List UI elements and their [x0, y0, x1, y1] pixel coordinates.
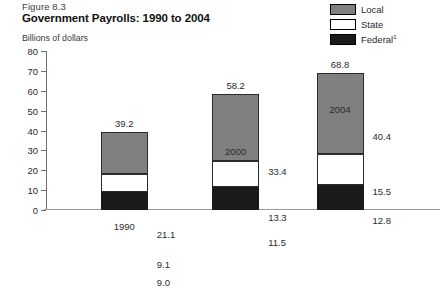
segment-value-state-1990: 9.1 — [157, 259, 170, 270]
legend-label-federal-text: Federal — [361, 34, 393, 45]
legend-label-local: Local — [361, 4, 384, 15]
segment-value-local-2004: 40.4 — [373, 130, 392, 141]
bar-segment-state-2000[interactable] — [212, 161, 259, 187]
figure-number: Figure 8.3 — [22, 1, 66, 12]
y-axis-unit-label: Billions of dollars — [22, 33, 88, 43]
y-axis-tick-label: 70 — [27, 65, 38, 76]
legend-item-state: State — [330, 18, 397, 31]
y-axis-tick — [41, 131, 46, 132]
segment-value-local-1990: 21.1 — [157, 229, 176, 240]
plot-area: 010203040506070809.09.121.139.2199011.51… — [46, 51, 394, 210]
bar-total-2000: 58.2 — [226, 80, 245, 91]
legend-item-local: Local — [330, 3, 397, 16]
bar-segment-federal-2004[interactable] — [317, 185, 364, 210]
y-axis-tick — [41, 51, 46, 52]
y-axis-tick-label: 50 — [27, 105, 38, 116]
segment-value-federal-2004: 12.8 — [373, 214, 392, 225]
y-axis-tick-label: 20 — [27, 165, 38, 176]
legend-swatch-state-icon — [330, 19, 356, 30]
y-axis-tick-label: 80 — [27, 46, 38, 57]
bar-segment-federal-1990[interactable] — [101, 192, 148, 210]
legend-item-federal: Federal1 — [330, 33, 397, 46]
segment-value-federal-1990: 9.0 — [157, 277, 170, 288]
bar-segment-state-1990[interactable] — [101, 174, 148, 192]
y-axis-tick — [41, 190, 46, 191]
y-axis-tick-label: 30 — [27, 145, 38, 156]
legend-label-federal: Federal1 — [361, 34, 397, 45]
bar-segment-state-2004[interactable] — [317, 154, 364, 185]
legend-footnote-marker: 1 — [393, 34, 396, 40]
y-axis-tick — [41, 170, 46, 171]
bar-1990[interactable]: 9.09.121.139.21990 — [101, 132, 148, 210]
legend-swatch-federal-icon — [330, 34, 356, 45]
legend-label-state: State — [361, 19, 383, 30]
y-axis-tick-label: 0 — [33, 205, 38, 216]
segment-value-local-2000: 33.4 — [268, 165, 287, 176]
figure-title: Government Payrolls: 1990 to 2004 — [22, 12, 210, 24]
legend-swatch-local-icon — [330, 4, 356, 15]
y-axis-tick-label: 40 — [27, 125, 38, 136]
y-axis-tick — [41, 91, 46, 92]
y-axis-tick — [41, 150, 46, 151]
x-axis-tick-label-2000: 2000 — [225, 146, 246, 157]
y-axis-tick-label: 60 — [27, 85, 38, 96]
legend: Local State Federal1 — [330, 3, 397, 48]
y-axis-tick — [41, 71, 46, 72]
segment-value-state-2000: 13.3 — [268, 212, 287, 223]
segment-value-state-2004: 15.5 — [373, 186, 392, 197]
bar-2004[interactable]: 12.815.540.468.82004 — [317, 73, 364, 210]
y-axis-tick — [41, 210, 46, 211]
segment-value-federal-2000: 11.5 — [268, 236, 286, 247]
x-axis-tick-label-2004: 2004 — [329, 104, 350, 115]
y-axis-line — [46, 51, 47, 210]
x-axis-tick-label-1990: 1990 — [114, 221, 135, 232]
bar-total-1990: 39.2 — [115, 118, 134, 129]
bar-segment-local-1990[interactable] — [101, 132, 148, 174]
bar-segment-federal-2000[interactable] — [212, 187, 259, 210]
bar-total-2004: 68.8 — [331, 59, 350, 70]
y-axis-tick — [41, 111, 46, 112]
bar-2000[interactable]: 11.513.333.458.22000 — [212, 94, 259, 210]
y-axis-tick-label: 10 — [27, 185, 38, 196]
